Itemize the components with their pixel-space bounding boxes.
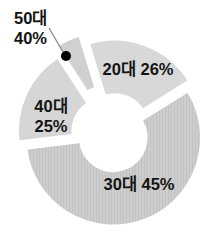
donut-chart-canvas: 50대 40% 20대 26% 40대 25% 30대 45% [0,0,212,233]
label-30s: 30대 45% [104,175,175,193]
label-50s-percent: 40% [14,29,47,47]
label-50s-name: 50대 [14,9,47,27]
callout-line [49,28,63,52]
donut-chart: 50대 40% 20대 26% 40대 25% 30대 45% [0,0,212,233]
label-40s-percent: 25% [34,117,67,135]
marker-dot-icon [61,51,71,61]
label-20s: 20대 26% [103,60,174,78]
label-40s-name: 40대 [34,97,67,115]
